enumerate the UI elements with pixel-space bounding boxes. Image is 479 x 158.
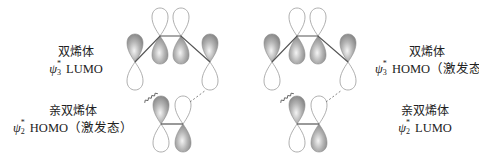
lobe-open <box>311 96 327 124</box>
lobe-open <box>340 62 356 90</box>
lobe-open <box>202 62 218 90</box>
lobe-shaded <box>202 34 218 62</box>
lobe-shaded <box>311 124 327 152</box>
antibonding-interaction-dashed-icon <box>190 90 206 102</box>
left-diene-orbital: ψ*3 LUMO <box>46 61 106 78</box>
lobe-open <box>175 96 191 124</box>
diene-backbone <box>272 36 348 62</box>
lobe-open <box>127 62 143 90</box>
lobe-shaded <box>153 96 169 124</box>
left-diene-name: 双烯体 <box>46 44 106 61</box>
lobe-open <box>310 8 326 36</box>
lobe-shaded <box>264 34 280 62</box>
antibonding-interaction-dashed-icon <box>326 90 342 102</box>
lobe-shaded <box>175 124 191 152</box>
right-dienophile-orbital: ψ*2 LUMO <box>390 120 460 137</box>
lobe-open <box>152 8 168 36</box>
lobe-open <box>264 62 280 90</box>
lobe-open <box>289 124 305 152</box>
lobe-open <box>289 8 305 36</box>
left-diene-orbitals <box>127 8 218 90</box>
left-dienophile-name: 亲双烯体 <box>8 103 138 120</box>
right-diene-orbital: ψ*3 HOMO（激发态） <box>375 61 479 78</box>
lobe-open <box>153 124 169 152</box>
right-dienophile-name: 亲双烯体 <box>390 103 460 120</box>
lobe-open <box>173 8 189 36</box>
lobe-shaded <box>127 34 143 62</box>
right-dienophile-label: 亲双烯体 ψ*2 LUMO <box>390 103 460 137</box>
left-dienophile-orbital: ψ*2 HOMO（激发态） <box>8 120 138 137</box>
right-diene-label: 双烯体 ψ*3 HOMO（激发态） <box>375 44 479 78</box>
left-dienophile-orbitals <box>153 96 191 152</box>
left-diene-label: 双烯体 ψ*3 LUMO <box>46 44 106 78</box>
lobe-shaded <box>289 36 305 64</box>
right-diene-orbitals <box>264 8 356 90</box>
lobe-shaded <box>173 36 189 64</box>
right-diene-name: 双烯体 <box>375 44 479 61</box>
lobe-shaded <box>152 36 168 64</box>
lobe-shaded <box>289 96 305 124</box>
left-dienophile-label: 亲双烯体 ψ*2 HOMO（激发态） <box>8 103 138 137</box>
diene-backbone <box>135 36 210 62</box>
right-dienophile-orbitals <box>289 96 327 152</box>
